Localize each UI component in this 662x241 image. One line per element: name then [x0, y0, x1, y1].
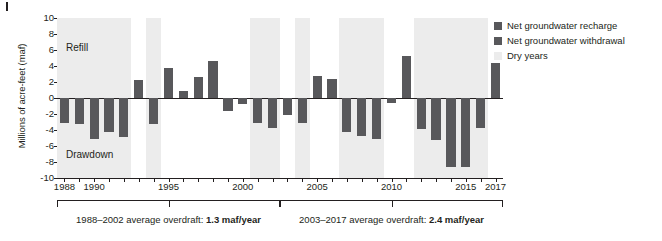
legend-item-recharge: Net groundwater recharge	[494, 19, 625, 33]
bar-2017	[491, 63, 500, 98]
bar-1995	[164, 68, 173, 98]
y-tick-mark	[54, 18, 57, 19]
bar-2013	[431, 98, 440, 140]
x-tick-mark	[258, 178, 259, 182]
bracket-cap-right	[502, 200, 503, 207]
legend-item-withdrawal: Net groundwater withdrawal	[494, 34, 625, 48]
bar-2005	[313, 76, 322, 98]
y-tick-mark	[54, 82, 57, 83]
chart-legend: Net groundwater recharge Net groundwater…	[494, 19, 625, 64]
x-tick-mark	[436, 178, 437, 182]
x-tick-label: 2010	[378, 182, 406, 192]
legend-label-withdrawal: Net groundwater withdrawal	[507, 36, 625, 46]
y-tick-mark	[54, 98, 57, 99]
x-tick-mark	[109, 178, 110, 182]
bar-1989	[75, 98, 84, 124]
x-tick-label: 1988	[50, 182, 78, 192]
bar-1993	[134, 80, 143, 98]
legend-label-dry-years: Dry years	[507, 51, 548, 61]
bar-2006	[327, 79, 336, 98]
x-tick-mark	[213, 178, 214, 182]
bar-2009	[372, 98, 381, 139]
x-tick-label: 2000	[229, 182, 257, 192]
bar-1998	[208, 61, 217, 98]
bracket-2003-2017-caption: 2003–2017 average overdraft: 2.4 maf/yea…	[280, 214, 503, 225]
bar-1994	[149, 98, 158, 124]
bar-1999	[223, 98, 232, 111]
groundwater-overdraft-chart: Millions of acre-feet (maf) 1086420-2-4-…	[0, 0, 662, 241]
y-tick-label: 0	[30, 93, 54, 103]
y-tick-label: -8	[30, 157, 54, 167]
legend-swatch-withdrawal-icon	[494, 37, 502, 45]
y-tick-mark	[54, 50, 57, 51]
x-tick-label: 1990	[80, 182, 108, 192]
x-tick-mark	[332, 178, 333, 182]
legend-item-dry-years: Dry years	[494, 49, 625, 63]
bar-2001	[253, 98, 262, 123]
y-axis-tick-labels: 1086420-2-4-6-8-10	[28, 0, 54, 241]
x-tick-mark	[362, 178, 363, 182]
bracket-cap-left	[280, 200, 281, 207]
y-tick-label: 6	[30, 45, 54, 55]
bar-2004	[298, 98, 307, 123]
legend-swatch-dry-years-icon	[494, 52, 502, 60]
bar-1990	[90, 98, 99, 139]
x-tick-label: 2005	[303, 182, 331, 192]
bar-1997	[194, 77, 203, 98]
y-tick-mark	[54, 146, 57, 147]
bar-2011	[402, 56, 411, 98]
bracket-caption-prefix: 1988–2002 average overdraft:	[76, 214, 206, 225]
y-tick-label: -2	[30, 109, 54, 119]
bar-2010	[387, 98, 396, 103]
bracket-1988-2002: 1988–2002 average overdraft: 1.3 maf/yea…	[57, 200, 280, 211]
bar-2012	[417, 98, 426, 129]
bracket-stem	[392, 200, 393, 207]
x-tick-mark	[287, 178, 288, 182]
bracket-caption-value: 2.4 maf/year	[429, 214, 484, 225]
bar-2016	[476, 98, 485, 128]
y-tick-label: 4	[30, 61, 54, 71]
bar-1988	[60, 98, 69, 123]
bar-1992	[119, 98, 128, 137]
x-tick-mark	[139, 178, 140, 182]
bar-2015	[461, 98, 470, 167]
bracket-caption-prefix: 2003–2017 average overdraft:	[299, 214, 429, 225]
x-tick-label: 2015	[452, 182, 480, 192]
bar-2007	[342, 98, 351, 132]
bar-2008	[357, 98, 366, 136]
corner-crop-mark	[6, 2, 8, 11]
y-tick-label: 2	[30, 77, 54, 87]
bracket-1988-2002-caption: 1988–2002 average overdraft: 1.3 maf/yea…	[57, 214, 280, 225]
x-tick-label: 2017	[482, 182, 510, 192]
bar-1991	[104, 98, 113, 132]
y-tick-label: -4	[30, 125, 54, 135]
bracket-2003-2017: 2003–2017 average overdraft: 2.4 maf/yea…	[280, 200, 503, 211]
bar-2003	[283, 98, 292, 115]
y-tick-mark	[54, 66, 57, 67]
y-tick-mark	[54, 114, 57, 115]
x-tick-mark	[273, 178, 274, 182]
y-tick-mark	[54, 178, 57, 179]
y-tick-label: 8	[30, 29, 54, 39]
legend-swatch-recharge-icon	[494, 22, 502, 30]
bar-2002	[268, 98, 277, 128]
plot-area	[57, 18, 503, 178]
bracket-caption-value: 1.3 maf/year	[206, 214, 261, 225]
x-tick-label: 1995	[155, 182, 183, 192]
bracket-cap-left	[57, 200, 58, 207]
x-tick-mark	[124, 178, 125, 182]
y-tick-mark	[54, 130, 57, 131]
x-tick-mark	[406, 178, 407, 182]
legend-label-recharge: Net groundwater recharge	[507, 21, 617, 31]
y-tick-mark	[54, 162, 57, 163]
x-tick-mark	[421, 178, 422, 182]
y-tick-label: -6	[30, 141, 54, 151]
x-tick-mark	[198, 178, 199, 182]
bar-1996	[179, 91, 188, 98]
y-tick-mark	[54, 34, 57, 35]
bar-2000	[238, 98, 247, 104]
annotation-refill: Refill	[66, 42, 88, 53]
y-tick-label: 10	[30, 13, 54, 23]
bracket-stem	[169, 200, 170, 207]
x-tick-mark	[347, 178, 348, 182]
